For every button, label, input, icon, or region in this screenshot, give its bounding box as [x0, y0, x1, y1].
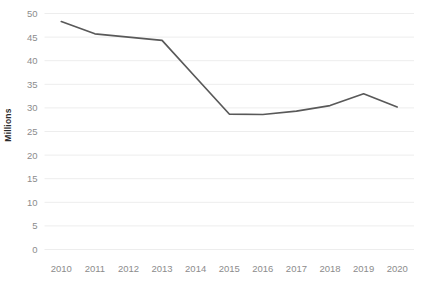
chart-canvas: 05101520253035404550 2010201120122013201…: [0, 0, 422, 293]
x-axis-tick-labels: 2010201120122013201420152016201720182019…: [51, 263, 408, 274]
x-axis-tick-label: 2011: [85, 263, 105, 274]
x-axis-tick-label: 2018: [319, 263, 340, 274]
y-axis-tick-label: 5: [32, 220, 37, 231]
y-axis-tick-label: 40: [27, 55, 38, 66]
x-axis-tick-label: 2017: [286, 263, 307, 274]
y-axis-tick-labels: 05101520253035404550: [27, 8, 38, 255]
y-axis-tick-label: 45: [27, 32, 38, 43]
line-chart: Millions 05101520253035404550 2010201120…: [0, 0, 422, 293]
y-axis-tick-label: 35: [27, 79, 38, 90]
x-axis-tick-label: 2016: [252, 263, 273, 274]
x-axis-tick-label: 2015: [219, 263, 240, 274]
y-axis-tick-label: 0: [32, 244, 37, 255]
data-series-line: [61, 22, 397, 115]
y-axis-tick-label: 20: [27, 150, 38, 161]
x-axis-tick-label: 2019: [353, 263, 374, 274]
x-axis-tick-label: 2013: [151, 263, 172, 274]
gridlines: [45, 14, 415, 250]
x-axis-tick-label: 2012: [118, 263, 139, 274]
y-axis-tick-label: 15: [27, 173, 38, 184]
x-axis-tick-label: 2020: [387, 263, 408, 274]
x-axis-tick-label: 2014: [185, 263, 206, 274]
y-axis-tick-label: 10: [27, 197, 38, 208]
y-axis-tick-label: 30: [27, 102, 38, 113]
y-axis-tick-label: 50: [27, 8, 38, 19]
x-axis-tick-label: 2010: [51, 263, 72, 274]
y-axis-tick-label: 25: [27, 126, 38, 137]
